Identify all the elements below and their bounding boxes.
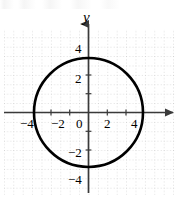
- y-tick-label-minus-4: −4: [68, 173, 82, 186]
- origin-label: 0: [76, 117, 83, 130]
- graph-figure: y −4 −2 0 2 4 4 2 −2 −4: [0, 0, 180, 200]
- y-tick-label-minus-2: −2: [68, 146, 82, 159]
- x-tick-label-4: 4: [131, 117, 138, 130]
- x-tick-label-minus-2: −2: [51, 117, 65, 130]
- x-tick-label-2: 2: [104, 117, 111, 130]
- coordinate-plane-svg: [0, 0, 180, 200]
- x-tick-label-minus-4: −4: [20, 117, 34, 130]
- y-axis-name-label: y: [83, 10, 90, 25]
- y-tick-label-2: 2: [75, 72, 82, 85]
- y-tick-label-4: 4: [75, 42, 82, 55]
